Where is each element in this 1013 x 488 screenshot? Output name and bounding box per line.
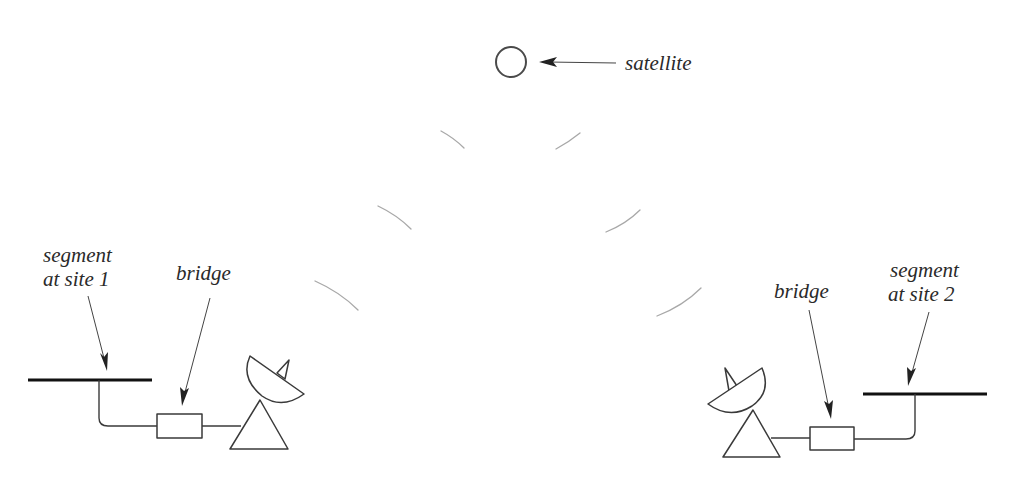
segment-site-2-label-line1: segment — [890, 258, 960, 282]
arrowhead-icon — [100, 352, 108, 371]
antenna-dish — [708, 368, 765, 413]
radio-waves-downlink — [556, 133, 701, 316]
satellite-bridge-diagram: satellite segment at site 1 bridge — [0, 0, 1013, 488]
segment-site-2-label-line2: at site 2 — [888, 282, 955, 306]
site-2: bridge segment at site 2 — [708, 258, 987, 457]
radio-wave-arc — [606, 210, 640, 232]
wire-segment-to-bridge-site-1 — [99, 380, 157, 426]
site-1: segment at site 1 bridge — [28, 243, 304, 449]
bridge-site-2-pointer-arrow — [809, 310, 833, 419]
radio-wave-arc — [657, 288, 701, 316]
antenna-mast — [230, 400, 288, 449]
bridge-box-site-2 — [810, 427, 854, 450]
satellite-pointer-arrow — [539, 57, 616, 67]
satellite-dish-icon-site-2 — [708, 368, 780, 457]
segment-site-1-label-line2: at site 1 — [43, 267, 110, 291]
satellite-dish-icon-site-1 — [230, 356, 304, 449]
bridge-site-1-pointer-arrow — [180, 298, 210, 406]
arrowhead-icon — [907, 367, 916, 386]
segment-site-2-pointer-arrow — [907, 312, 929, 386]
satellite-label: satellite — [625, 51, 692, 75]
satellite-icon — [496, 47, 526, 77]
radio-waves-uplink — [315, 131, 464, 310]
bridge-site-2-label: bridge — [774, 279, 829, 303]
satellite-node — [496, 47, 526, 77]
bridge-box-site-1 — [157, 414, 202, 438]
radio-wave-arc — [556, 133, 580, 149]
antenna-mast — [723, 410, 780, 457]
segment-site-1-label-line1: segment — [43, 243, 113, 267]
radio-wave-arc — [441, 131, 464, 148]
arrowhead-icon — [824, 400, 833, 419]
segment-site-1-pointer-arrow — [88, 296, 108, 371]
radio-wave-arc — [315, 281, 358, 310]
antenna-dish — [247, 356, 304, 403]
radio-wave-arc — [378, 206, 411, 229]
wire-segment-to-bridge-site-2 — [854, 394, 915, 439]
bridge-site-1-label: bridge — [176, 261, 231, 285]
arrowhead-icon — [180, 387, 189, 406]
